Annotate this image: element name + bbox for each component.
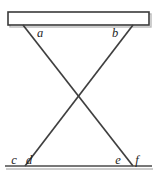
angle-label-d: d — [26, 153, 33, 167]
geometry-figure: a b c d e f — [0, 0, 157, 175]
angle-label-b: b — [112, 26, 118, 40]
figure-canvas: a b c d e f — [0, 0, 157, 175]
angle-label-a: a — [37, 26, 43, 40]
angle-label-e: e — [115, 153, 121, 167]
angle-label-c: c — [11, 153, 17, 167]
angle-label-f: f — [135, 153, 140, 167]
top-beam — [8, 12, 149, 25]
